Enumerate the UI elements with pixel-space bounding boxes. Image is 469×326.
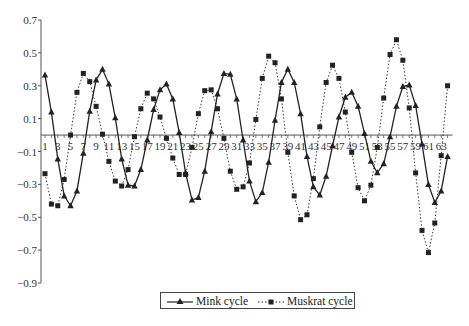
square-marker	[164, 136, 169, 141]
legend-label-mink: Mink cycle	[196, 295, 248, 307]
square-marker	[432, 221, 437, 226]
x-tick-label: 45	[321, 140, 333, 152]
square-marker	[381, 96, 386, 101]
square-marker	[336, 76, 341, 81]
triangle-marker	[259, 189, 265, 195]
square-marker	[273, 60, 278, 65]
square-marker	[221, 136, 226, 141]
square-marker	[426, 250, 431, 255]
triangle-marker	[310, 183, 316, 189]
triangle-marker	[342, 94, 348, 100]
triangle-marker	[368, 158, 374, 164]
square-marker	[62, 177, 67, 182]
y-tick-label: 0.5	[23, 47, 37, 59]
triangle-marker	[297, 110, 303, 116]
triangle-marker	[278, 79, 284, 85]
square-marker	[400, 58, 405, 63]
triangle-marker	[176, 129, 182, 135]
triangle-marker	[412, 102, 418, 108]
square-marker	[228, 169, 233, 174]
triangle-marker	[214, 90, 220, 96]
triangle-marker	[48, 109, 54, 115]
triangle-marker	[112, 114, 118, 120]
square-marker	[375, 145, 380, 150]
triangle-marker	[61, 192, 67, 198]
triangle-marker	[42, 72, 48, 78]
square-marker	[68, 133, 73, 138]
square-marker	[202, 88, 207, 93]
x-tick-label: 1	[42, 140, 48, 152]
series-mink-cycle	[42, 66, 451, 208]
square-marker	[170, 156, 175, 161]
square-marker	[209, 87, 214, 92]
triangle-marker	[163, 81, 169, 87]
triangle-marker	[106, 81, 112, 87]
triangle-marker	[291, 79, 297, 85]
triangle-marker	[380, 160, 386, 166]
square-marker	[253, 117, 258, 122]
triangle-marker	[355, 103, 361, 109]
square-marker	[241, 184, 246, 189]
line-chart: 0.70.50.30.1−0.1−0.3−0.5−0.7−0.9 1357911…	[0, 0, 469, 290]
square-marker	[445, 83, 450, 88]
square-marker	[298, 217, 303, 222]
square-marker	[292, 193, 297, 198]
square-marker	[43, 171, 48, 176]
square-marker	[119, 184, 124, 189]
square-marker	[260, 76, 265, 81]
square-marker	[100, 132, 105, 137]
y-tick-label: 0.3	[23, 80, 37, 92]
x-tick-label: 19	[155, 140, 167, 152]
chart-legend: Mink cycle Muskrat cycle	[160, 292, 355, 309]
square-marker	[343, 110, 348, 115]
x-tick-label: 47	[333, 140, 345, 152]
square-marker	[138, 106, 143, 111]
square-marker	[234, 187, 239, 192]
square-marker	[158, 114, 163, 119]
square-marker	[407, 105, 412, 110]
triangle-marker	[336, 113, 342, 119]
square-marker	[285, 150, 290, 155]
triangle-marker	[438, 187, 444, 193]
x-tick-label: 13	[116, 140, 128, 152]
triangle-marker-icon	[167, 297, 193, 305]
triangle-marker	[208, 128, 214, 134]
triangle-marker	[406, 81, 412, 87]
square-marker	[362, 198, 367, 203]
square-marker	[49, 202, 54, 207]
y-tick-label: −0.3	[17, 178, 37, 190]
square-marker	[317, 124, 322, 129]
x-tick-label: 63	[436, 140, 448, 152]
square-marker	[330, 63, 335, 68]
square-marker	[247, 161, 252, 166]
triangle-marker	[246, 178, 252, 184]
square-marker	[94, 104, 99, 109]
x-tick-label: 35	[257, 140, 269, 152]
x-tick-label: 25	[193, 140, 205, 152]
triangle-marker	[125, 182, 131, 188]
y-tick-label: 0.1	[23, 113, 37, 125]
triangle-marker	[349, 89, 355, 95]
square-marker	[145, 91, 150, 96]
square-marker	[106, 159, 111, 164]
triangle-marker	[138, 166, 144, 172]
triangle-marker	[387, 133, 393, 139]
triangle-marker	[323, 173, 329, 179]
square-marker	[177, 172, 182, 177]
triangle-marker	[118, 155, 124, 161]
legend-label-muskrat: Muskrat cycle	[287, 295, 352, 307]
triangle-marker	[304, 153, 310, 159]
square-marker	[349, 150, 354, 155]
triangle-marker	[99, 66, 105, 72]
square-marker	[439, 153, 444, 158]
triangle-marker	[265, 159, 271, 165]
triangle-marker	[234, 95, 240, 101]
square-marker	[368, 183, 373, 188]
square-marker	[279, 96, 284, 101]
y-tick-label: −0.1	[17, 146, 37, 158]
y-tick-label: −0.5	[17, 211, 37, 223]
y-axis: 0.70.50.30.1−0.1−0.3−0.5−0.7−0.9	[17, 14, 41, 289]
square-marker	[324, 80, 329, 85]
x-tick-label: 57	[397, 140, 409, 152]
square-marker	[74, 90, 79, 95]
